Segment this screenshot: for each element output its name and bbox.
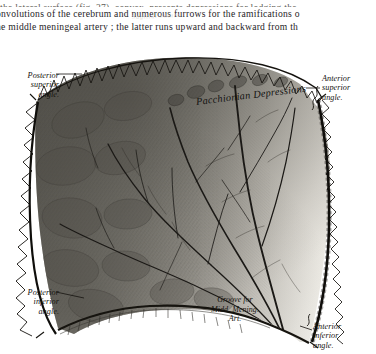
label-anterior-superior-angle: Anterior superior angle. — [322, 74, 376, 102]
body-text-block: the lateral surface (fig. 27), convex, p… — [0, 0, 376, 34]
body-text-line-2: he middle meningeal artery ; the latter … — [0, 20, 376, 33]
label-posterior-superior-angle: Posterior superior angle. — [3, 71, 59, 99]
label-groove-middle-meningeal-artery: Groove for Midd. Mening. Art. — [196, 295, 274, 324]
figure-caption: Fig. 27.—Left Parietal Bone. Outer Surfa… — [0, 347, 376, 354]
body-text-line-1: onvolutions of the cerebrum and numerous… — [0, 7, 376, 20]
label-posterior-inferior-angle: Posterior inferior angle. — [3, 288, 59, 316]
body-text-line-clipped: the lateral surface (fig. 27), convex, p… — [0, 1, 376, 7]
label-anterior-inferior-angle: Anterior inferior angle. — [313, 322, 371, 350]
